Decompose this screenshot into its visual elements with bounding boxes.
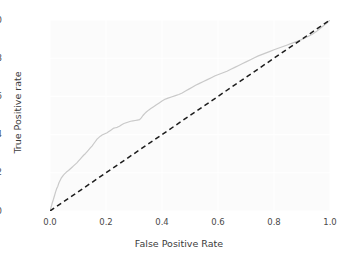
roc-curve-line xyxy=(50,20,330,211)
chart-canvas xyxy=(50,20,330,211)
x-tick-label: 0.2 xyxy=(86,218,126,227)
x-tick-label: 0.0 xyxy=(30,218,70,227)
y-tick-label: 0.4 xyxy=(0,130,2,139)
y-tick-label: 0.6 xyxy=(0,92,2,101)
y-tick-label: 0.0 xyxy=(0,207,2,216)
data-series-layer xyxy=(50,20,330,211)
y-tick-label: 0.2 xyxy=(0,168,2,177)
y-tick-label: 1.0 xyxy=(0,16,2,25)
x-tick-label: 0.6 xyxy=(198,218,238,227)
grid-lines xyxy=(50,20,330,211)
x-tick-label: 0.4 xyxy=(142,218,182,227)
chance-diagonal-line xyxy=(50,20,330,211)
roc-curve-figure: 0.00.20.40.60.81.0 0.00.20.40.60.81.0 Fa… xyxy=(0,0,358,259)
y-axis-title: True Positive rate xyxy=(12,48,23,178)
x-tick-label: 1.0 xyxy=(310,218,350,227)
y-tick-label: 0.8 xyxy=(0,54,2,63)
x-axis-title: False Positive Rate xyxy=(0,238,358,249)
plot-area xyxy=(50,20,330,211)
x-tick-label: 0.8 xyxy=(254,218,294,227)
